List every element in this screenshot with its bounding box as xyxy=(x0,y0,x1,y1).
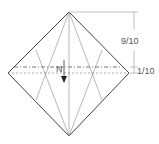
arrowhead-icon xyxy=(61,76,67,83)
measurement-lower: 1/10 xyxy=(137,66,155,76)
measurement-upper: 9/10 xyxy=(121,36,139,46)
fold-label: N xyxy=(56,64,63,74)
crease-left-a xyxy=(36,12,69,100)
origami-diagram: N 9/10 1/10 xyxy=(0,0,159,144)
crease-right-b xyxy=(69,50,102,136)
paper-outline xyxy=(8,12,129,136)
crease-right-a xyxy=(69,12,102,100)
